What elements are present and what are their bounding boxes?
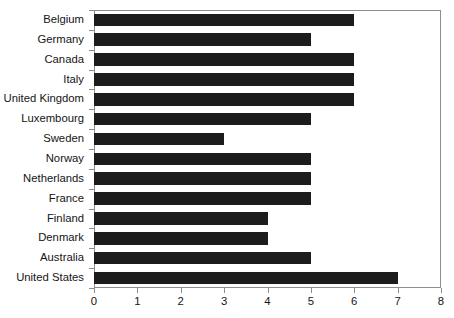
bar (94, 172, 311, 185)
x-axis-tick-label: 1 (134, 295, 140, 307)
bar-row (94, 169, 441, 189)
y-axis-label: Netherlands (23, 169, 84, 189)
x-axis: 012345678 (94, 288, 441, 318)
x-axis-tick (224, 288, 225, 293)
bar-row (94, 10, 441, 30)
bar (94, 113, 311, 126)
y-axis-label: Italy (63, 70, 84, 90)
y-axis-label: Canada (44, 50, 84, 70)
bar (94, 232, 268, 245)
bar (94, 192, 311, 205)
bar (94, 252, 311, 265)
bar-row (94, 50, 441, 70)
x-axis-tick (354, 288, 355, 293)
x-axis-tick-label: 3 (221, 295, 227, 307)
x-axis-tick (268, 288, 269, 293)
bar-row (94, 70, 441, 90)
x-axis-tick (94, 288, 95, 293)
bar-row (94, 89, 441, 109)
bar (94, 153, 311, 166)
bar-row (94, 129, 441, 149)
bar-row (94, 109, 441, 129)
x-axis-tick (181, 288, 182, 293)
x-axis-tick (311, 288, 312, 293)
bar-row (94, 149, 441, 169)
y-axis-label: Sweden (43, 129, 84, 149)
x-axis-tick-label: 8 (438, 295, 444, 307)
bar-row (94, 228, 441, 248)
y-axis-label: United States (16, 268, 84, 288)
bar (94, 53, 354, 66)
x-axis-tick-label: 0 (91, 295, 97, 307)
y-axis: BelgiumGermanyCanadaItalyUnited KingdomL… (0, 10, 94, 288)
y-axis-label: Denmark (38, 228, 84, 248)
x-axis-tick (398, 288, 399, 293)
bar-row (94, 30, 441, 50)
bar (94, 133, 224, 146)
y-axis-label: Belgium (43, 10, 84, 30)
y-axis-label: Germany (38, 30, 84, 50)
bar-row (94, 189, 441, 209)
y-axis-label: Australia (40, 248, 84, 268)
bar (94, 272, 398, 285)
bar (94, 212, 268, 225)
bar-row (94, 268, 441, 288)
bar-chart: BelgiumGermanyCanadaItalyUnited KingdomL… (0, 0, 454, 318)
y-axis-label: Luxembourg (21, 109, 84, 129)
x-axis-tick-label: 6 (351, 295, 357, 307)
x-axis-tick-label: 2 (178, 295, 184, 307)
y-axis-label: Norway (46, 149, 84, 169)
bar (94, 33, 311, 46)
bar (94, 14, 354, 27)
x-axis-tick-label: 4 (264, 295, 270, 307)
bar-row (94, 209, 441, 229)
x-axis-tick (137, 288, 138, 293)
bar (94, 93, 354, 106)
y-axis-label: Finland (47, 209, 84, 229)
bar-row (94, 248, 441, 268)
bars-layer (94, 10, 441, 288)
bar (94, 73, 354, 86)
x-axis-tick-label: 7 (394, 295, 400, 307)
x-axis-tick (441, 288, 442, 293)
y-axis-label: United Kingdom (4, 89, 84, 109)
y-axis-label: France (49, 189, 84, 209)
x-axis-tick-label: 5 (308, 295, 314, 307)
